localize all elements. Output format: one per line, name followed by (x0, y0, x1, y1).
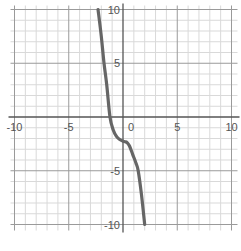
tick-label: 0 (128, 121, 134, 133)
minor-grid (11, 6, 238, 231)
axes (9, 4, 240, 233)
tick-label: 10 (108, 4, 120, 16)
tick-label: 10 (225, 121, 237, 133)
tick-label: -5 (64, 121, 74, 133)
function-graph: -10-50510105-5-10 (0, 0, 241, 251)
tick-label: 5 (174, 121, 180, 133)
tick-label: -10 (7, 121, 23, 133)
tick-label: -5 (110, 165, 120, 177)
tick-label: 5 (114, 57, 120, 69)
tick-label: -10 (104, 219, 120, 231)
major-grid (11, 6, 238, 231)
